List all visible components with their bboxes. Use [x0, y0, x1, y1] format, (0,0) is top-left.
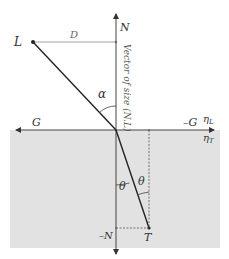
refraction-diagram: L D N Vector of size (N.L) α G –G ηL ηT …: [0, 0, 229, 259]
label-neg-N: –N: [99, 231, 113, 241]
label-theta-right: θ: [138, 176, 145, 187]
label-theta-left: θ: [119, 181, 126, 192]
incident-vector-L: [33, 42, 116, 130]
label-eta-T: ηT: [203, 133, 214, 145]
D-endpoint-dot: [115, 41, 117, 43]
eta-L-subscript: L: [209, 118, 214, 126]
label-alpha: α: [98, 88, 106, 100]
label-N: N: [120, 22, 130, 33]
guide-dot-left: [115, 227, 117, 229]
eta-T-subscript: T: [209, 137, 214, 145]
transmission-medium: [10, 130, 220, 248]
label-T: T: [144, 232, 151, 243]
label-vector-size: Vector of size (N.L): [122, 44, 132, 131]
guide-dot-top: [148, 129, 150, 131]
alpha-arc: [100, 106, 117, 113]
label-eta-L: ηL: [203, 114, 214, 126]
label-G: G: [32, 117, 41, 128]
diagram-canvas: [0, 0, 229, 259]
label-neg-G: –G: [183, 117, 197, 128]
label-L: L: [14, 36, 22, 48]
label-D: D: [70, 30, 78, 40]
L-point: [31, 40, 35, 44]
